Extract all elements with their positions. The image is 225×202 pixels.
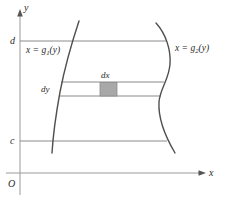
lower-bound-label-c: c <box>10 135 15 146</box>
curve-g2-label: x = g2(y) <box>174 43 209 54</box>
y-axis-label: y <box>23 2 29 13</box>
curve-g1-label-prefix: x = g <box>25 45 46 55</box>
dx-label-x: x <box>105 70 110 80</box>
region-integration-diagram: y x O d c x = g1(y) x = g2( <box>0 0 225 202</box>
curve-g1-label: x = g1(y) <box>25 45 60 56</box>
curve-g2-label-prefix: x = g <box>174 43 195 53</box>
curve-g2-label-suffix: (y) <box>199 43 210 54</box>
x-axis-label: x <box>208 167 214 178</box>
diagram-background <box>0 0 225 202</box>
dy-label-y: y <box>45 84 50 94</box>
dx-label: dx <box>101 70 110 80</box>
origin-label: O <box>8 178 15 189</box>
area-element-rect-dx <box>100 83 117 97</box>
figure-container: y x O d c x = g1(y) x = g2( <box>0 0 225 202</box>
dy-label: dy <box>41 84 50 94</box>
curve-g1-label-suffix: (y) <box>50 45 61 56</box>
